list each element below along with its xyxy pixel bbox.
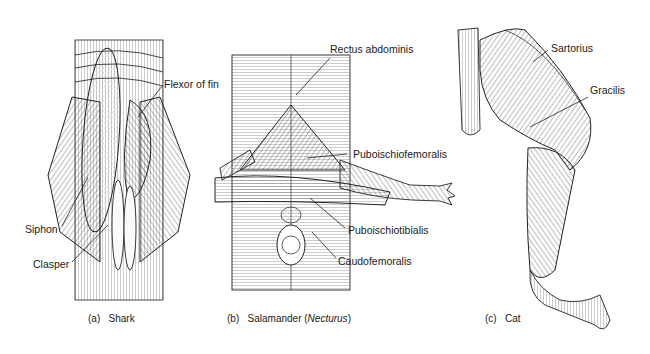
label-puboischiofemoralis: Puboischiofemoralis: [353, 149, 447, 160]
caption-a-name: Shark: [109, 313, 135, 324]
label-puboischiotibialis: Puboischiotibialis: [348, 225, 429, 236]
label-caudofemoralis: Caudofemoralis: [338, 256, 412, 267]
caption-b-letter: (b): [227, 313, 239, 324]
caption-c-letter: (c): [485, 313, 497, 324]
label-siphon: Siphon: [25, 224, 58, 235]
caption-b: (b) Salamander (Necturus): [227, 314, 351, 324]
caption-a-letter: (a): [88, 313, 100, 324]
salamander-pelvic-drawing: [215, 55, 455, 290]
caption-b-genus: Necturus: [308, 313, 348, 324]
caption-c-name: Cat: [505, 313, 521, 324]
caption-b-suffix: ): [348, 313, 351, 324]
caption-b-name: Salamander (: [248, 313, 308, 324]
label-gracilis: Gracilis: [590, 85, 625, 96]
label-clasper: Clasper: [33, 259, 69, 270]
cat-hindlimb-drawing: [458, 28, 610, 329]
label-flexor-of-fin: Flexor of fin: [164, 79, 219, 90]
caption-a: (a) Shark: [88, 314, 135, 324]
label-rectus-abdominis: Rectus abdominis: [330, 44, 413, 55]
label-sartorius: Sartorius: [551, 43, 593, 54]
caption-c: (c) Cat: [485, 314, 521, 324]
